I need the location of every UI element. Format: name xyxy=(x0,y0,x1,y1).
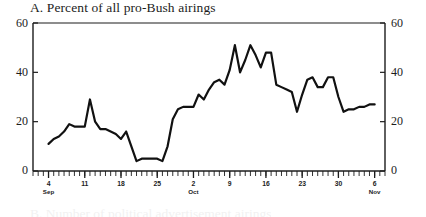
x-axis-tick-label: 4Sep xyxy=(29,180,69,196)
x-axis-tick-month: Sep xyxy=(29,188,69,196)
y-axis-label-right-60: 60 xyxy=(391,16,419,31)
x-axis-tick-label: 25 xyxy=(137,180,177,188)
x-axis-tick-day: 16 xyxy=(246,180,286,188)
x-axis-tick-day: 11 xyxy=(65,180,105,188)
x-axis-tick-month: Oct xyxy=(173,188,213,196)
x-axis-tick-label: 16 xyxy=(246,180,286,188)
data-series-line xyxy=(49,45,375,161)
next-panel-preview-text: B. Number of political advertisement air… xyxy=(30,206,271,217)
x-axis-tick-day: 30 xyxy=(318,180,358,188)
chart-figure: A. Percent of all pro-Bush airings 60 40… xyxy=(0,0,426,217)
x-axis-tick-label: 18 xyxy=(101,180,141,188)
y-axis-label-right-40: 40 xyxy=(391,65,419,80)
y-axis-ticks-right xyxy=(380,23,385,171)
x-axis-tick-label: 6Nov xyxy=(355,180,395,196)
x-axis-tick-day: 23 xyxy=(282,180,322,188)
x-axis-tick-month: Nov xyxy=(355,188,395,196)
x-axis-tick-day: 2 xyxy=(173,180,213,188)
y-axis-label-left-20: 20 xyxy=(2,114,28,129)
x-axis-tick-label: 2Oct xyxy=(173,180,213,196)
y-axis-label-left-40: 40 xyxy=(2,65,28,80)
x-axis-tick-label: 30 xyxy=(318,180,358,188)
y-axis-label-right-20: 20 xyxy=(391,114,419,129)
y-axis-label-left-0: 0 xyxy=(2,163,28,178)
x-axis-minor-ticks xyxy=(33,171,385,176)
x-axis-tick-day: 6 xyxy=(355,180,395,188)
x-axis-tick-label: 11 xyxy=(65,180,105,188)
x-axis-tick-day: 25 xyxy=(137,180,177,188)
y-axis-ticks-left xyxy=(33,23,38,171)
x-axis-tick-label: 23 xyxy=(282,180,322,188)
y-axis-label-right-0: 0 xyxy=(391,163,419,178)
plot-frame xyxy=(33,23,385,171)
x-axis-tick-label: 9 xyxy=(210,180,250,188)
x-axis-major-ticks xyxy=(49,171,375,178)
x-axis-tick-day: 4 xyxy=(29,180,69,188)
x-axis-tick-day: 18 xyxy=(101,180,141,188)
y-axis-label-left-60: 60 xyxy=(2,16,28,31)
x-axis-tick-day: 9 xyxy=(210,180,250,188)
